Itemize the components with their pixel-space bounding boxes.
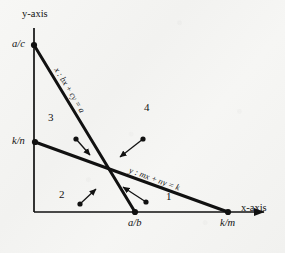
point-a-over-c: [31, 42, 37, 48]
figure-canvas: [0, 0, 285, 253]
line-x: [34, 45, 135, 212]
region-label-4: 4: [144, 102, 150, 113]
arrow-region-2: [77, 189, 96, 207]
tick-label-k-over-m: k/m: [220, 218, 235, 229]
tick-label-k-over-n: k/n: [12, 136, 25, 147]
point-k-over-m: [225, 209, 231, 215]
x-axis-label: x-axis: [241, 203, 267, 214]
line-y: [35, 142, 228, 212]
region-label-3: 3: [48, 112, 54, 123]
line-x-group: [31, 42, 138, 215]
point-a-over-b: [132, 209, 138, 215]
region-label-1: 1: [166, 191, 172, 202]
arrow-region-4: [120, 136, 146, 157]
point-k-over-n: [32, 139, 38, 145]
y-axis-label: y-axis: [22, 9, 48, 20]
tick-label-a-over-b: a/b: [128, 218, 141, 229]
tick-label-a-over-c: a/c: [12, 39, 25, 50]
region-label-2: 2: [59, 189, 65, 200]
arrow-region-3: [73, 136, 90, 155]
